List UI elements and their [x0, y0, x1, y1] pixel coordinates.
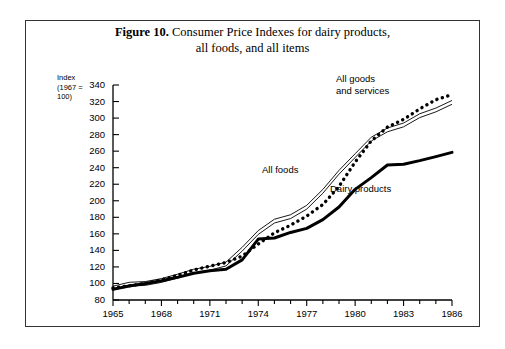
annotation-all-goods-line1: All goods — [336, 73, 389, 85]
x-axis-tick-label: 1983 — [384, 308, 424, 319]
figure-title-line2: all foods, and all items — [196, 41, 310, 55]
y-axis-tick-label: 120 — [79, 261, 105, 272]
y-axis-tick-label: 180 — [79, 211, 105, 222]
y-axis-tick-label: 240 — [79, 162, 105, 173]
x-axis-tick-label: 1986 — [432, 308, 472, 319]
y-axis-tick-label: 340 — [79, 79, 105, 90]
y-axis-tick-label: 140 — [79, 244, 105, 255]
annotation-all-foods: All foods — [262, 164, 298, 176]
x-axis-tick-label: 1971 — [190, 308, 230, 319]
figure-number: Figure 10. — [115, 25, 169, 39]
x-axis-tick-label: 1974 — [238, 308, 278, 319]
y-axis-tick-label: 160 — [79, 228, 105, 239]
y-axis-tick-label: 100 — [79, 277, 105, 288]
y-axis-tick-label: 260 — [79, 145, 105, 156]
annotation-dairy-products: Dairy products — [330, 183, 391, 195]
annotation-all-goods-and-services: All goods and services — [336, 73, 389, 96]
x-axis-tick-label: 1965 — [93, 308, 133, 319]
y-axis-tick-label: 220 — [79, 178, 105, 189]
x-axis-tick-label: 1968 — [141, 308, 181, 319]
y-axis-tick-label: 300 — [79, 112, 105, 123]
y-axis-tick-label: 80 — [79, 294, 105, 305]
x-axis-tick-label: 1977 — [287, 308, 327, 319]
y-axis-tick-label: 320 — [79, 96, 105, 107]
y-axis-tick-label: 280 — [79, 129, 105, 140]
figure-title: Figure 10. Consumer Price Indexes for da… — [45, 24, 460, 56]
annotation-all-goods-line2: and services — [336, 85, 389, 97]
figure-title-line1: Consumer Price Indexes for dairy product… — [172, 25, 390, 39]
x-axis-tick-label: 1980 — [335, 308, 375, 319]
y-axis-tick-label: 200 — [79, 195, 105, 206]
